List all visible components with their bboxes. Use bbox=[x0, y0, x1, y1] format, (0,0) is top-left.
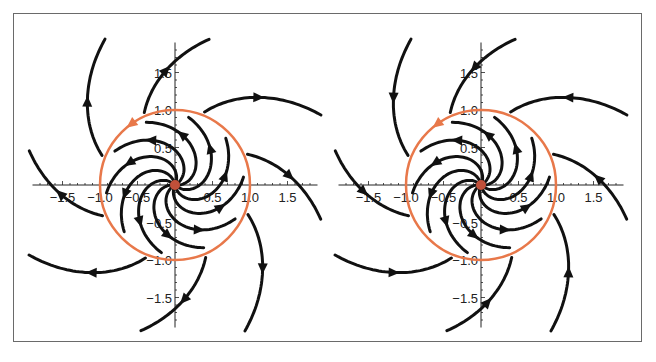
fixed-point-origin bbox=[170, 180, 180, 190]
phase-portrait-right: −1.5−1.0−0.50.51.01.51.51.00.5−0.5−1.0−1… bbox=[335, 39, 627, 331]
arrow-icon bbox=[218, 171, 227, 183]
arrow-icon bbox=[524, 171, 533, 183]
arrow-icon bbox=[389, 267, 400, 277]
phase-portraits: −1.5−1.0−0.50.51.01.51.51.00.5−0.5−1.0−1… bbox=[0, 0, 656, 362]
arrow-icon bbox=[451, 135, 462, 145]
fixed-point-origin bbox=[476, 180, 486, 190]
y-tick-label: −1.5 bbox=[146, 291, 172, 306]
arrow-icon bbox=[86, 268, 97, 278]
arrow-icon bbox=[562, 93, 573, 103]
arrow-icon bbox=[194, 225, 205, 235]
arrow-icon bbox=[258, 263, 268, 274]
arrow-icon bbox=[432, 117, 444, 128]
arrow-icon bbox=[126, 117, 138, 128]
outer-trajectory bbox=[205, 97, 321, 115]
inner-trajectory bbox=[421, 140, 490, 182]
outer-trajectory bbox=[554, 154, 627, 219]
arrow-icon bbox=[563, 266, 573, 277]
inner-trajectory bbox=[166, 188, 235, 230]
phase-portrait-left: −1.5−1.0−0.50.51.01.51.51.00.5−0.5−1.0−1… bbox=[29, 39, 321, 331]
arrow-icon bbox=[82, 96, 92, 107]
arrow-icon bbox=[253, 92, 264, 102]
inner-trajectory bbox=[115, 140, 184, 182]
arrow-icon bbox=[145, 135, 156, 145]
x-tick-label: 1.5 bbox=[584, 190, 602, 205]
outer-trajectory bbox=[248, 154, 321, 219]
arrow-icon bbox=[389, 93, 399, 104]
arrow-icon bbox=[500, 225, 511, 235]
inner-trajectory bbox=[472, 188, 541, 230]
x-tick-label: 1.5 bbox=[278, 190, 296, 205]
outer-trajectory bbox=[29, 255, 145, 273]
outer-trajectory bbox=[245, 215, 263, 331]
outer-trajectory bbox=[87, 39, 105, 155]
y-tick-label: −1.5 bbox=[452, 291, 478, 306]
